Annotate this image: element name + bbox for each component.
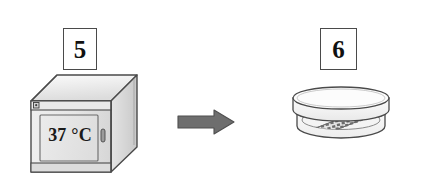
arrow-right-icon: [178, 110, 234, 134]
figure-canvas: 5: [0, 0, 428, 190]
process-arrow: [176, 108, 236, 136]
incubator-base: [31, 163, 111, 172]
step-number-label-5: 5: [74, 37, 87, 62]
step-number-box-5: 5: [63, 28, 97, 70]
incubator-control-strip: [31, 101, 111, 110]
step-number-box-6: 6: [320, 28, 357, 70]
petri-dish-illustration: [283, 86, 399, 148]
step-number-label-6: 6: [332, 37, 345, 62]
incubator-temperature-label: 37 °C: [34, 125, 106, 146]
dish-lid: [293, 87, 389, 121]
